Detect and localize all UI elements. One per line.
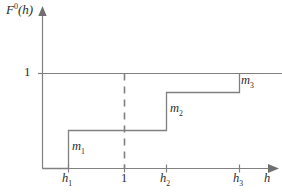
y-axis-label: F0(h) [6, 3, 33, 16]
jump-label-m3: m3 [241, 74, 254, 87]
x-tick-label-h1: h1 [62, 172, 72, 185]
jump-label-m1: m1 [72, 140, 85, 153]
figure-canvas [0, 0, 282, 195]
step-function-figure: F0(h) 1 h1 1 h2 h3 h m1 m2 m3 [0, 0, 282, 195]
x-tick-label-h2: h2 [160, 172, 170, 185]
y-tick-label-one: 1 [24, 65, 31, 78]
step-curve [43, 74, 240, 169]
x-axis-label: h [264, 172, 270, 185]
x-tick-label-h3: h3 [233, 172, 243, 185]
x-tick-label-one: 1 [121, 172, 127, 185]
y-axis-arrowhead [38, 6, 46, 16]
jump-label-m2: m2 [170, 102, 183, 115]
